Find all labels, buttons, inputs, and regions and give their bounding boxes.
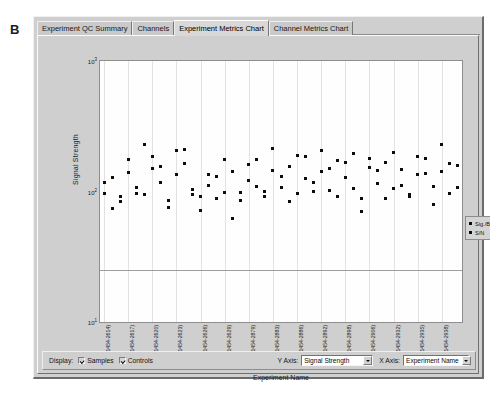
- data-point: [280, 186, 283, 189]
- grid-line-vertical: [201, 61, 202, 322]
- data-point: [191, 188, 194, 191]
- data-point: [456, 186, 459, 189]
- data-point: [376, 182, 379, 185]
- data-point: [263, 195, 266, 198]
- data-point: [440, 170, 443, 173]
- legend-label: S/N: [475, 230, 484, 236]
- data-point: [448, 162, 451, 165]
- screenshot-root: B Experiment QC SummaryChannelsExperimen…: [0, 0, 490, 398]
- data-point: [167, 206, 170, 209]
- data-point: [111, 176, 114, 179]
- data-point: [440, 143, 443, 146]
- data-point: [159, 181, 162, 184]
- grid-line-vertical: [176, 61, 177, 322]
- tab-strip-filler: [353, 21, 480, 35]
- grid-line-vertical: [418, 61, 419, 322]
- data-point: [304, 155, 307, 158]
- data-point: [207, 184, 210, 187]
- data-point: [368, 166, 371, 169]
- data-point: [255, 158, 258, 161]
- data-point: [199, 195, 202, 198]
- legend-item: Sig./Bkgd.: [468, 219, 490, 228]
- chart-controls-bar: Display: Samples Controls Y Axis: Signal…: [42, 351, 476, 370]
- data-point: [103, 181, 106, 184]
- y-axis-tick-label: 102: [75, 188, 97, 196]
- data-point: [135, 192, 138, 195]
- data-point: [336, 159, 339, 162]
- data-point: [424, 157, 427, 160]
- grid-line-vertical: [273, 61, 274, 322]
- chart-legend: Sig./Bkgd.S/N: [465, 216, 490, 240]
- data-point: [448, 192, 451, 195]
- grid-line-vertical: [369, 61, 370, 322]
- data-point: [328, 189, 331, 192]
- data-point: [360, 210, 363, 213]
- data-point: [127, 171, 130, 174]
- data-point: [247, 163, 250, 166]
- data-point: [280, 175, 283, 178]
- data-point: [352, 152, 355, 155]
- data-point: [183, 148, 186, 151]
- y-axis-select-value: Signal Strength: [304, 357, 352, 364]
- data-point: [175, 149, 178, 152]
- data-point: [223, 158, 226, 161]
- data-point: [304, 177, 307, 180]
- grid-line-vertical: [249, 61, 250, 322]
- y-axis-select[interactable]: Signal Strength: [301, 355, 373, 366]
- data-point: [151, 155, 154, 158]
- controls-label: Controls: [128, 357, 153, 364]
- tab-channels[interactable]: Channels: [132, 21, 174, 35]
- data-point: [135, 186, 138, 189]
- y-axis-selector-label: Y Axis:: [278, 357, 299, 364]
- chevron-down-icon[interactable]: [462, 356, 471, 365]
- x-axis-select-value: Experiment Name: [406, 357, 462, 364]
- plot-area[interactable]: [99, 60, 463, 323]
- checkbox-icon: [78, 357, 85, 364]
- data-point: [215, 175, 218, 178]
- data-point: [296, 154, 299, 157]
- reference-line: [100, 270, 462, 271]
- data-point: [119, 195, 122, 198]
- tab-label: Channel Metrics Chart: [274, 24, 349, 33]
- grid-line-vertical: [345, 61, 346, 322]
- data-point: [400, 184, 403, 187]
- samples-checkbox[interactable]: Samples: [78, 357, 113, 364]
- x-axis-select[interactable]: Experiment Name: [403, 355, 469, 366]
- data-point: [400, 168, 403, 171]
- data-point: [183, 162, 186, 165]
- data-point: [376, 169, 379, 172]
- data-point: [151, 167, 154, 170]
- data-point: [432, 203, 435, 206]
- data-point: [239, 199, 242, 202]
- tab-experiment-metrics-chart[interactable]: Experiment Metrics Chart: [174, 20, 269, 36]
- data-point: [111, 207, 114, 210]
- y-axis-tick-label: 101: [75, 318, 97, 326]
- data-point: [344, 176, 347, 179]
- data-point: [352, 187, 355, 190]
- tab-label: Channels: [137, 24, 169, 33]
- data-point: [360, 197, 363, 200]
- data-point: [288, 200, 291, 203]
- data-point: [119, 200, 122, 203]
- data-point: [143, 143, 146, 146]
- data-point: [263, 190, 266, 193]
- controls-checkbox[interactable]: Controls: [119, 357, 153, 364]
- tab-experiment-qc-summary[interactable]: Experiment QC Summary: [37, 21, 132, 35]
- tab-label: Experiment QC Summary: [42, 24, 127, 33]
- data-point: [312, 190, 315, 193]
- data-point: [103, 192, 106, 195]
- data-point: [296, 192, 299, 195]
- data-point: [247, 179, 250, 182]
- panel-letter: B: [10, 22, 19, 37]
- data-point: [392, 187, 395, 190]
- data-point: [416, 155, 419, 158]
- data-point: [408, 195, 411, 198]
- chevron-down-icon[interactable]: [363, 356, 372, 365]
- data-point: [239, 191, 242, 194]
- data-point: [312, 181, 315, 184]
- data-point: [271, 169, 274, 172]
- data-point: [456, 164, 459, 167]
- data-point: [127, 158, 130, 161]
- legend-swatch-icon: [469, 231, 472, 234]
- tab-channel-metrics-chart[interactable]: Channel Metrics Chart: [269, 21, 354, 35]
